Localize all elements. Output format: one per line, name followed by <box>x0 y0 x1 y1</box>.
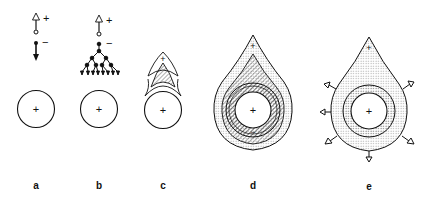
minus-sign: − <box>42 36 48 48</box>
panel-d: + + − d <box>214 35 292 191</box>
center-plus: + <box>366 105 372 117</box>
positive-carrier-arrow-icon <box>33 13 40 34</box>
panel-label-a: a <box>33 180 39 191</box>
center-plus: + <box>250 104 256 116</box>
negative-carrier-arrow-icon <box>33 41 39 61</box>
panel-label-c: c <box>160 180 166 191</box>
center-plus: + <box>33 103 39 115</box>
electron-avalanche-tree-icon <box>81 42 120 75</box>
panel-label-d: d <box>250 180 256 191</box>
bottom-minus: − <box>250 127 255 137</box>
panel-c: + + c <box>145 52 182 191</box>
center-plus: + <box>96 103 102 115</box>
tip-plus: + <box>250 41 255 51</box>
panel-b: + − <box>81 14 120 191</box>
plus-sign: + <box>106 14 112 26</box>
minus-sign: − <box>106 37 112 49</box>
tip-plus: + <box>366 43 371 53</box>
panel-a: + − + a <box>18 12 55 191</box>
panel-e: + + e <box>320 37 414 192</box>
tip-plus: + <box>160 54 165 64</box>
panel-label-e: e <box>366 181 372 192</box>
positive-carrier-arrow-icon <box>96 15 103 36</box>
plus-sign: + <box>43 12 49 24</box>
figure-canvas: + − + a + − <box>0 0 431 206</box>
panel-label-b: b <box>96 180 102 191</box>
center-plus: + <box>160 104 166 116</box>
